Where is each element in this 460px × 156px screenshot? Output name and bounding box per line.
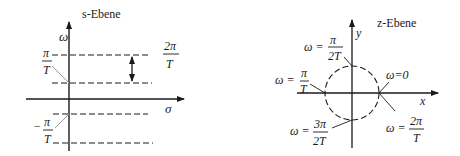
lower-leader-line bbox=[55, 114, 69, 128]
upper-label-denominator: T bbox=[43, 63, 51, 77]
period-label-denominator: T bbox=[166, 57, 174, 71]
sigma-axis-label: σ bbox=[165, 101, 172, 116]
label-denominator: 2T bbox=[313, 134, 327, 148]
upper-label-numerator: π bbox=[43, 46, 50, 60]
x-axis-label: x bbox=[419, 94, 426, 108]
s-plane: s-Ebene ω σ 2π T π T − bbox=[26, 7, 184, 151]
lower-label-sign: − bbox=[34, 119, 41, 133]
s-plane-to-z-plane-mapping-diagram: s-Ebene ω σ 2π T π T − bbox=[0, 0, 460, 156]
label-numerator: 3π bbox=[313, 117, 327, 131]
leader-line bbox=[379, 93, 395, 111]
label-denominator: T bbox=[413, 131, 421, 145]
label-prefix: ω = bbox=[275, 73, 295, 87]
leader-line bbox=[379, 82, 389, 93]
label-3pi-over-2t: ω = 3π 2T bbox=[290, 117, 352, 148]
label-2pi-over-t: ω = 2π T bbox=[379, 93, 424, 145]
label-text: ω=0 bbox=[386, 68, 409, 82]
s-plane-title: s-Ebene bbox=[82, 7, 121, 21]
lower-neg-pi-over-t-label: − π T bbox=[34, 114, 69, 146]
leader-line bbox=[332, 120, 352, 128]
label-prefix: ω = bbox=[386, 121, 406, 135]
label-numerator: π bbox=[301, 66, 308, 80]
lower-label-numerator: π bbox=[44, 115, 51, 129]
upper-leader-line bbox=[52, 66, 69, 83]
period-label-numerator: 2π bbox=[164, 39, 177, 53]
label-numerator: π bbox=[330, 33, 337, 47]
leader-line bbox=[310, 84, 325, 93]
label-numerator: 2π bbox=[410, 114, 423, 128]
label-prefix: ω = bbox=[290, 124, 310, 138]
z-plane-title: z-Ebene bbox=[377, 16, 416, 30]
label-denominator: 2T bbox=[328, 49, 342, 63]
label-prefix: ω = bbox=[304, 40, 324, 54]
lower-label-denominator: T bbox=[44, 132, 52, 146]
label-pi-over-2t: ω = π 2T bbox=[304, 33, 352, 66]
upper-pi-over-t-label: π T bbox=[42, 46, 69, 83]
omega-axis-label: ω bbox=[59, 29, 68, 44]
z-plane: z-Ebene y x ω = π 2T ω = π T ω=0 bbox=[275, 16, 438, 148]
y-axis-label: y bbox=[355, 26, 362, 40]
label-omega-zero: ω=0 bbox=[379, 68, 409, 93]
label-denominator: T bbox=[300, 82, 308, 96]
leader-line bbox=[344, 57, 352, 66]
label-pi-over-t: ω = π T bbox=[275, 66, 325, 96]
period-label: 2π T bbox=[163, 39, 179, 71]
